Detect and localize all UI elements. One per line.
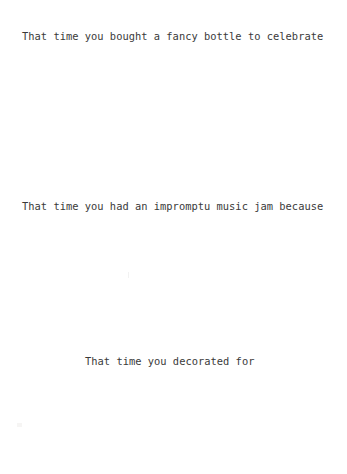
- text-line-3: That time you decorated for: [85, 355, 254, 367]
- text-line-2: That time you had an impromptu music jam…: [22, 200, 323, 212]
- scan-speck: [128, 272, 129, 278]
- scanned-page: That time you bought a fancy bottle to c…: [0, 0, 347, 474]
- scan-speck: [17, 423, 22, 427]
- text-line-1: That time you bought a fancy bottle to c…: [22, 30, 323, 42]
